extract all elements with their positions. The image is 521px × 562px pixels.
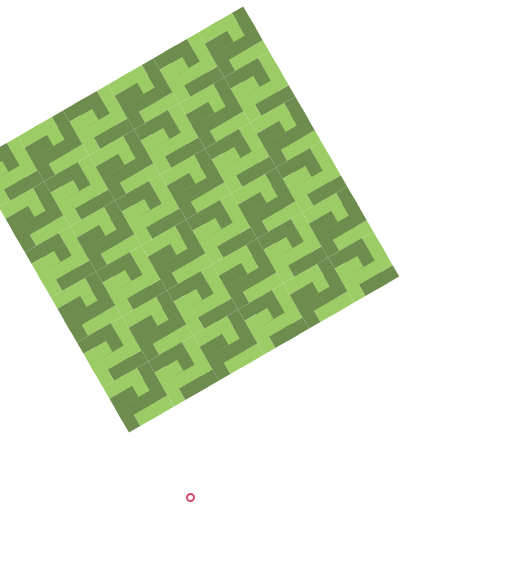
tessellation-group (0, 6, 399, 432)
fret-pattern (0, 0, 521, 562)
ring-marker-icon (186, 493, 195, 502)
